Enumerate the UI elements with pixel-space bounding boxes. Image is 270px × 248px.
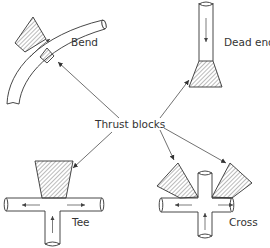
cross-label: Cross — [229, 216, 258, 228]
bend-pipe — [7, 20, 103, 104]
dead-end-thrust-block — [189, 61, 222, 87]
dead-end-label: Dead end — [224, 36, 270, 48]
cross-thrust-block-right — [212, 163, 252, 198]
cross-thrust-block-left — [157, 163, 198, 198]
bend-thrust-block-inner — [40, 48, 54, 63]
dead-end-fitting: Dead end — [189, 2, 270, 87]
bend-label: Bend — [71, 36, 98, 48]
thrust-blocks-diagram: Bend Dead end Thrust blocks Tee — [0, 0, 270, 248]
tee-thrust-block — [35, 161, 73, 198]
cross-fitting: Cross — [157, 163, 258, 238]
bend-fitting: Bend — [7, 17, 107, 104]
tee-label: Tee — [71, 216, 90, 228]
tee-fitting: Tee — [4, 161, 104, 246]
thrust-blocks-label: Thrust blocks — [94, 118, 165, 130]
